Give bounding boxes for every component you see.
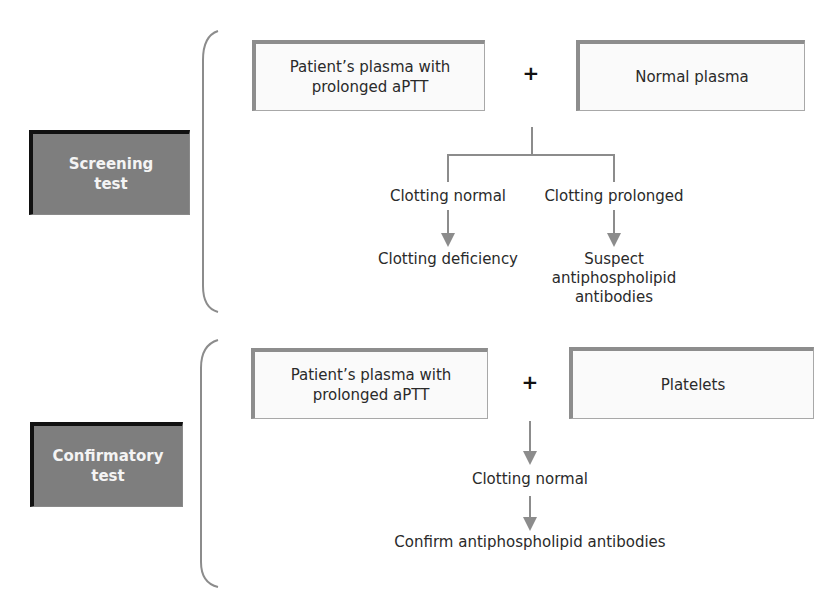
confirmatory-test-label: Confirmatory test — [30, 422, 183, 507]
confirmatory-test-text: Confirmatory test — [53, 446, 164, 486]
screening-patient-plasma-text: Patient’s plasma with prolonged aPTT — [290, 57, 451, 97]
confirm-antiphospholipid-conclusion: Confirm antiphospholipid antibodies — [370, 533, 690, 552]
clotting-deficiency-conclusion: Clotting deficiency — [368, 250, 528, 269]
platelets-text: Platelets — [661, 375, 726, 395]
suspect-antiphospholipid-conclusion: Suspect antiphospholipid antibodies — [534, 250, 694, 307]
plus-operator: + — [521, 63, 541, 83]
screening-patient-plasma-box: Patient’s plasma with prolonged aPTT — [252, 40, 485, 111]
confirmatory-patient-plasma-box: Patient’s plasma with prolonged aPTT — [251, 348, 488, 419]
normal-plasma-text: Normal plasma — [635, 67, 749, 87]
confirmatory-clotting-normal-result: Clotting normal — [450, 470, 610, 489]
confirmatory-brace — [201, 340, 218, 587]
screening-brace — [203, 31, 218, 312]
confirmatory-patient-plasma-text: Patient’s plasma with prolonged aPTT — [291, 365, 452, 405]
plus-operator: + — [520, 372, 540, 392]
screening-test-label: Screening test — [29, 130, 190, 215]
clotting-normal-result: Clotting normal — [378, 187, 518, 206]
screening-test-text: Screening test — [69, 154, 154, 194]
clotting-prolonged-result: Clotting prolonged — [534, 187, 694, 206]
platelets-box: Platelets — [569, 347, 814, 419]
normal-plasma-box: Normal plasma — [576, 40, 805, 111]
